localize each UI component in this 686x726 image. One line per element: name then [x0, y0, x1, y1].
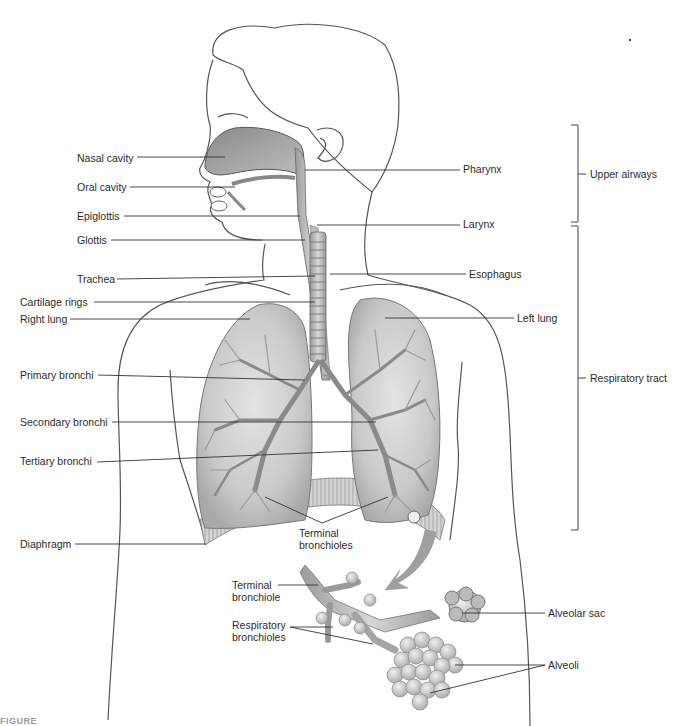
label-esophagus: Esophagus: [469, 268, 522, 280]
label-left-lung: Left lung: [517, 312, 557, 324]
respiratory-tract-bracket: [571, 226, 578, 530]
figure-caption-fragment: FIGURE: [0, 716, 37, 726]
label-secondary-bronchi: Secondary bronchi: [20, 416, 108, 428]
label-alveolar-sac: Alveolar sac: [548, 607, 605, 619]
label-right-lung: Right lung: [20, 313, 67, 325]
label-primary-bronchi: Primary bronchi: [20, 369, 94, 381]
label-terminal-bronchioles: Terminal bronchioles: [299, 527, 359, 551]
pleura-marker: [408, 511, 420, 523]
label-cartilage-rings: Cartilage rings: [20, 296, 88, 308]
label-larynx: Larynx: [463, 218, 495, 230]
label-epiglottis: Epiglottis: [77, 210, 120, 222]
label-diaphragm: Diaphragm: [20, 538, 71, 550]
alveolar-sac-shape: [445, 587, 485, 622]
nasal-oral-cavity: [205, 127, 304, 211]
label-glottis: Glottis: [77, 234, 107, 246]
respiratory-diagram: Nasal cavity Oral cavity Epiglottis Glot…: [0, 0, 686, 726]
stray-dot: [629, 39, 631, 41]
trachea-shape: [310, 232, 326, 362]
label-upper-airways: Upper airways: [590, 168, 657, 180]
brackets: [571, 125, 586, 530]
label-nasal-cavity: Nasal cavity: [77, 152, 134, 164]
label-tertiary-bronchi: Tertiary bronchi: [20, 455, 92, 467]
label-respiratory-bronchioles: Respiratory bronchioles: [232, 619, 294, 643]
upper-airways-bracket: [571, 125, 578, 222]
label-alveoli: Alveoli: [548, 659, 579, 671]
label-terminal-bronchiole: Terminal bronchiole: [232, 579, 287, 603]
label-pharynx: Pharynx: [463, 163, 502, 175]
magnify-arrow: [385, 530, 436, 590]
alveoli-cluster: [316, 572, 463, 710]
label-oral-cavity: Oral cavity: [77, 181, 127, 193]
label-respiratory-tract: Respiratory tract: [590, 372, 667, 384]
label-trachea: Trachea: [77, 273, 115, 285]
